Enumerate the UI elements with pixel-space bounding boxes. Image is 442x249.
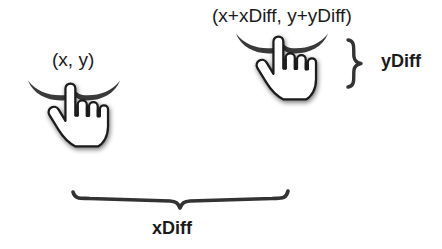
curly-brace-horizontal-icon: [73, 191, 288, 208]
ydiff-label: yDiff: [381, 52, 421, 70]
diagram-canvas: (x, y) (x+xDiff, y+yDiff) yDiff xDiff: [0, 0, 442, 249]
xdiff-label: xDiff: [152, 219, 192, 237]
start-pointing-hand-cursor-icon: [49, 84, 108, 147]
end-touch-point: [236, 33, 328, 99]
start-touch-point: [28, 80, 120, 146]
diagram-vector-layer: [0, 0, 442, 249]
curly-brace-vertical-icon: [348, 40, 361, 87]
end-pointing-hand-cursor-icon: [257, 37, 316, 100]
start-point-label: (x, y): [52, 50, 94, 69]
end-point-label: (x+xDiff, y+yDiff): [212, 6, 352, 25]
